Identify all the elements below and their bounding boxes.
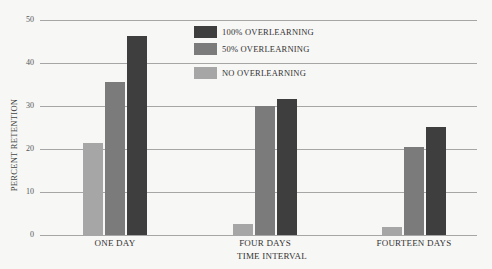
legend-swatch — [194, 67, 217, 79]
bar — [382, 227, 402, 235]
legend-swatch — [194, 43, 217, 55]
legend-label: 100% OVERLEARNING — [222, 27, 314, 37]
y-tick-label: 40 — [14, 58, 34, 67]
y-axis-title: PERCENT RETENTION — [9, 85, 19, 205]
bar — [233, 224, 253, 235]
bar — [127, 36, 147, 235]
legend-item-none: NO OVERLEARNING — [194, 67, 306, 79]
bar — [277, 99, 297, 235]
x-axis-title: TIME INTERVAL — [172, 251, 372, 261]
y-tick-label: 50 — [14, 15, 34, 24]
legend-item-100: 100% OVERLEARNING — [194, 26, 314, 38]
y-tick-label: 0 — [14, 230, 34, 239]
legend-item-50: 50% OVERLEARNING — [194, 43, 309, 55]
bar — [426, 127, 446, 235]
bar-chart: 01020304050 ONE DAYFOUR DAYSFOURTEEN DAY… — [0, 0, 492, 269]
bar — [83, 143, 103, 235]
legend-swatch — [194, 26, 217, 38]
legend-label: NO OVERLEARNING — [222, 68, 306, 78]
gridline — [40, 63, 477, 64]
x-category-label: ONE DAY — [55, 238, 175, 248]
gridline — [40, 235, 477, 236]
bar — [105, 82, 125, 235]
bar — [404, 147, 424, 235]
x-category-label: FOURTEEN DAYS — [354, 238, 474, 248]
legend-label: 50% OVERLEARNING — [222, 44, 309, 54]
bar — [255, 106, 275, 235]
gridline — [40, 20, 477, 21]
x-category-label: FOUR DAYS — [205, 238, 325, 248]
